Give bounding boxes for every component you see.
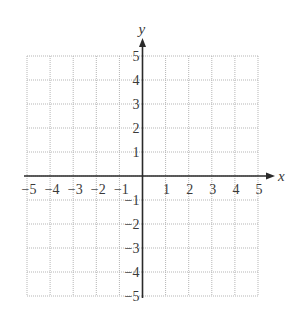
y-tick-label: −4 — [125, 265, 140, 280]
y-tick-label: 4 — [133, 73, 140, 88]
x-tick-label: −2 — [91, 182, 106, 197]
y-tick-label: 2 — [133, 121, 140, 136]
y-tick-label: −1 — [125, 193, 140, 208]
x-tick-label: 5 — [256, 182, 263, 197]
y-axis-label: y — [137, 21, 146, 37]
y-tick-label: −2 — [125, 217, 140, 232]
y-tick-label: −3 — [125, 241, 140, 256]
y-axis-arrow-icon — [139, 38, 146, 47]
x-tick-label: −4 — [45, 182, 60, 197]
y-tick-label: −5 — [125, 289, 140, 304]
x-axis-label: x — [277, 168, 285, 184]
x-axis-arrow-icon — [266, 173, 275, 180]
y-tick-label: 5 — [133, 49, 140, 64]
x-tick-label: −5 — [22, 182, 37, 197]
x-tick-label: 1 — [163, 182, 170, 197]
y-tick-label: 1 — [133, 145, 140, 160]
x-tick-label: 2 — [186, 182, 193, 197]
x-tick-label: 4 — [232, 182, 239, 197]
coordinate-plane: −5−4−3−2−112345 −5−4−3−2−112345 x y — [0, 0, 300, 318]
x-tick-label: −3 — [68, 182, 83, 197]
y-tick-label: 3 — [133, 97, 140, 112]
x-tick-label: 3 — [209, 182, 216, 197]
axes — [24, 38, 275, 298]
